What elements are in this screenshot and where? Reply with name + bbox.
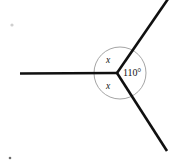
angle-label-x-top: x: [106, 56, 110, 66]
angle-label-x-bottom: x: [106, 82, 110, 92]
diagram-canvas: [0, 0, 173, 163]
geometry-figure: x x 110°: [0, 0, 173, 163]
left-horizontal-ray: [20, 73, 117, 74]
upper-right-ray: [117, 0, 168, 73]
lower-right-ray: [117, 73, 167, 151]
scan-speck-top-left-icon: [10, 23, 13, 26]
angle-label-110-degrees: 110°: [123, 68, 141, 78]
scan-speck-bottom-left-icon: [9, 157, 12, 160]
